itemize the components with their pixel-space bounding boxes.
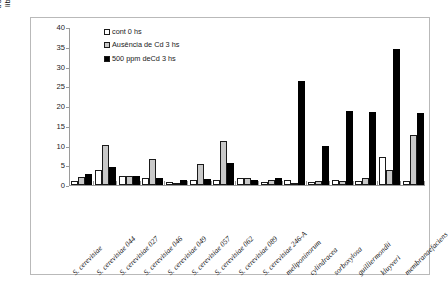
bar [197, 164, 204, 185]
bar [244, 178, 251, 185]
bar [369, 112, 376, 185]
bar [166, 182, 173, 185]
bar-group [378, 28, 402, 185]
bar [213, 180, 220, 185]
x-tick-mark [424, 181, 425, 185]
legend-label: cont 0 hs [112, 28, 142, 35]
bar [315, 181, 322, 185]
bar [410, 135, 417, 185]
bar [109, 167, 116, 185]
bar [102, 145, 109, 185]
chart-legend: cont 0 hsAusência de Cd 3 hs500 ppm deCd… [104, 26, 179, 67]
bar-group [354, 28, 378, 185]
y-tick-mark [66, 28, 69, 29]
bar [95, 170, 102, 185]
y-tick-label: 30 [57, 64, 65, 72]
bar [308, 182, 315, 185]
y-tick-mark [66, 147, 69, 148]
y-tick-label: 25 [57, 83, 65, 91]
legend-swatch-icon [104, 56, 110, 62]
bar-group [212, 28, 236, 185]
y-tick-mark [66, 166, 69, 167]
x-axis-line [69, 185, 425, 186]
bar [126, 176, 133, 185]
y-tick-mark [66, 127, 69, 128]
bar-group [330, 28, 354, 185]
legend-item: Ausência de Cd 3 hs [104, 40, 179, 51]
bar [298, 81, 305, 185]
bar [322, 146, 329, 185]
y-tick-mark [66, 87, 69, 88]
y-tick-label: 15 [57, 123, 65, 131]
bar [332, 180, 339, 185]
bar-group [283, 28, 307, 185]
bar [156, 178, 163, 186]
legend-item: cont 0 hs [104, 26, 179, 37]
bar [268, 180, 275, 185]
y-tick-mark [66, 68, 69, 69]
bar [85, 174, 92, 185]
bar-group [188, 28, 212, 185]
bar [251, 180, 258, 185]
x-axis-labels: S. cerevisiaeS. cerevisiae 044S. cerevis… [69, 187, 425, 277]
legend-label: Ausência de Cd 3 hs [112, 41, 179, 48]
bar [339, 181, 346, 185]
bar [403, 181, 410, 185]
bar [173, 183, 180, 185]
bar [237, 178, 244, 185]
legend-label: 500 ppm deCd 3 hs [112, 55, 176, 62]
y-tick-label: 0 [61, 182, 65, 190]
bar [190, 180, 197, 185]
bar [142, 178, 149, 186]
y-axis-title: trealose ( moles de glicose liberada/g d… [0, 0, 13, 38]
bar [261, 182, 268, 185]
legend-item: 500 ppm deCd 3 hs [104, 53, 179, 64]
bar [386, 170, 393, 185]
y-tick-mark [66, 48, 69, 49]
bar [71, 181, 78, 185]
bar-group [307, 28, 331, 185]
bar-group [236, 28, 260, 185]
chart-figure: trealose ( moles de glicose liberada/g d… [0, 0, 448, 297]
bar [180, 180, 187, 185]
bar [291, 183, 298, 185]
bar [417, 113, 424, 185]
x-axis-label: kluyveri [380, 254, 403, 277]
bar [355, 181, 362, 185]
y-tick-mark [66, 107, 69, 108]
bar [119, 176, 126, 185]
bar [78, 177, 85, 185]
bar [133, 176, 140, 185]
legend-swatch-icon [104, 29, 110, 35]
bar [284, 180, 291, 185]
y-tick-label: 35 [57, 44, 65, 52]
y-tick-label: 20 [57, 103, 65, 111]
legend-swatch-icon [104, 42, 110, 48]
bar [393, 49, 400, 185]
bar [275, 178, 282, 185]
bar [220, 141, 227, 185]
bar [149, 159, 156, 185]
y-tick-label: 10 [57, 143, 65, 151]
bar [346, 111, 353, 185]
bar [227, 163, 234, 185]
y-tick-label: 5 [61, 162, 65, 170]
bar [379, 157, 386, 185]
bar [362, 178, 369, 186]
bar-group [259, 28, 283, 185]
bar-group [70, 28, 94, 185]
bar-group [401, 28, 425, 185]
y-tick-label: 40 [57, 24, 65, 32]
bar [204, 179, 211, 185]
